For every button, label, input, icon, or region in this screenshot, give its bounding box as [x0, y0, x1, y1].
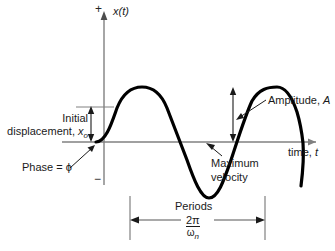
initial-displacement-subscript: o — [84, 131, 88, 140]
amplitude-annotation — [230, 87, 236, 142]
maximum-velocity-leader — [206, 143, 222, 156]
phase-leader — [70, 145, 95, 168]
y-axis — [101, 11, 108, 185]
periods-label: Periods — [175, 200, 212, 213]
initial-displacement-label: Initial displacement, xo — [2, 112, 88, 142]
period-denominator: ωn — [186, 226, 200, 243]
vibration-waveform-figure: + − x(t) time, t Initial displacement, x… — [0, 0, 335, 251]
maximum-velocity-label: Maximum velocity — [211, 156, 281, 184]
negative-sign: − — [94, 172, 101, 186]
x-axis-variable: t — [315, 146, 318, 158]
phase-label: Phase = ϕ — [22, 161, 72, 174]
period-fraction: 2π ωn — [186, 214, 200, 243]
period-numerator: 2π — [186, 214, 200, 226]
amplitude-symbol: A — [323, 94, 330, 106]
period-denominator-subscript: n — [195, 232, 199, 241]
initial-displacement-symbol: xo — [78, 125, 88, 137]
positive-sign: + — [95, 2, 102, 16]
x-axis-arrowhead — [308, 139, 316, 146]
x-axis-label: time, t — [288, 146, 318, 159]
amplitude-label: Amplitude, A — [268, 94, 330, 107]
y-axis-label: x(t) — [113, 5, 129, 18]
